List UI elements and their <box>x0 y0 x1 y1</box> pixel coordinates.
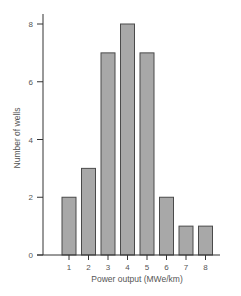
bar-6 <box>160 197 174 255</box>
bar-7 <box>179 226 193 255</box>
bar-5 <box>140 53 154 255</box>
y-tick-label: 8 <box>29 20 34 29</box>
bar-3 <box>101 53 115 255</box>
x-tick-label: 3 <box>106 263 111 272</box>
x-axis-title: Power output (MWe/km) <box>91 274 183 284</box>
bar-1 <box>62 197 76 255</box>
x-tick-label: 1 <box>67 263 72 272</box>
y-tick-label: 4 <box>29 136 34 145</box>
bar-8 <box>199 226 213 255</box>
y-ticks: 02468 <box>29 20 43 260</box>
x-tick-label: 2 <box>86 263 91 272</box>
x-tick-label: 7 <box>184 263 189 272</box>
y-axis-title: Number of wells <box>12 108 22 169</box>
y-tick-label: 0 <box>29 251 34 260</box>
bars-group <box>62 24 213 255</box>
bar-4 <box>121 24 135 255</box>
y-tick-label: 2 <box>29 193 34 202</box>
y-tick-label: 6 <box>29 78 34 87</box>
x-tick-label: 4 <box>125 263 130 272</box>
x-tick-label: 8 <box>203 263 208 272</box>
bar-chart: 02468 12345678 Power output (MWe/km) Num… <box>0 0 241 296</box>
x-tick-label: 5 <box>145 263 150 272</box>
x-tick-label: 6 <box>164 263 169 272</box>
bar-2 <box>82 168 96 255</box>
x-ticks: 12345678 <box>67 255 209 272</box>
